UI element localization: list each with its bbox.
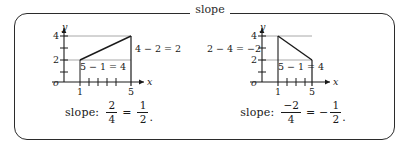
y-tick-label-4: 4	[53, 31, 59, 41]
slope-caption-lead: slope:	[240, 107, 274, 118]
slope-line	[80, 36, 131, 60]
y-tick-label-2: 2	[251, 55, 257, 65]
run-label: 5 − 1 = 4	[80, 62, 126, 72]
slope-fraction-simplified: 1 2	[137, 100, 148, 124]
fraction-numerator: 1	[330, 100, 341, 112]
slope-caption-positive: slope: 2 4 = 1 2 .	[16, 100, 202, 124]
origin-label: o	[251, 78, 257, 88]
slope-line	[278, 36, 312, 60]
fraction-denominator: 2	[138, 113, 149, 125]
run-label: 5 − 1 = 4	[278, 62, 324, 72]
panel-negative-slope: y x o 2 4 1 5 5 − 1 = 4 2 − 4 = −2 slope…	[200, 20, 386, 138]
x-axis-label: x	[333, 77, 338, 87]
plot-negative-slope: y x o 2 4 1 5 5 − 1 = 4 2 − 4 = −2	[200, 20, 386, 98]
rise-label: 2 − 4 = −2	[207, 44, 261, 54]
x-tick-label-5: 5	[309, 87, 315, 97]
slope-fraction-rise-run: 2 4	[106, 100, 117, 124]
fraction-numerator: 1	[138, 100, 149, 112]
origin-label: o	[53, 78, 59, 88]
equals-sign: =	[122, 107, 131, 118]
rise-label: 4 − 2 = 2	[135, 44, 181, 54]
y-tick-label-2: 2	[53, 55, 59, 65]
fraction-denominator: 2	[330, 113, 341, 125]
panel-positive-slope: y x o 2 4 1 5 5 − 1 = 4 4 − 2 = 2 slope:…	[16, 20, 202, 138]
plot-svg-positive	[16, 20, 202, 98]
x-tick-label-1: 1	[275, 87, 281, 97]
fraction-numerator: 2	[106, 100, 117, 112]
slope-caption-lead: slope:	[65, 107, 99, 118]
x-tick-label-5: 5	[128, 87, 134, 97]
plot-positive-slope: y x o 2 4 1 5 5 − 1 = 4 4 − 2 = 2	[16, 20, 202, 98]
equals-sign: =	[306, 107, 315, 118]
fraction-denominator: 4	[286, 113, 297, 125]
fraction-numerator: −2	[281, 100, 300, 112]
y-tick-label-4: 4	[251, 31, 257, 41]
y-axis-label: y	[62, 22, 67, 32]
slope-fraction-rise-run: −2 4	[281, 100, 300, 124]
x-tick-label-1: 1	[77, 87, 83, 97]
x-axis-arrow	[139, 80, 144, 85]
slope-caption-negative: slope: −2 4 = − 1 2 .	[200, 100, 386, 124]
trailing-period: .	[149, 112, 153, 124]
x-axis-arrow	[325, 80, 330, 85]
y-axis-label: y	[260, 22, 265, 32]
x-axis-label: x	[147, 77, 152, 87]
slope-fraction-simplified: 1 2	[330, 100, 341, 124]
slope-figure: slope	[0, 0, 420, 158]
plot-svg-negative	[200, 20, 386, 98]
fraction-denominator: 4	[106, 113, 117, 125]
slope-sign: −	[319, 107, 328, 118]
trailing-period: .	[342, 112, 346, 124]
